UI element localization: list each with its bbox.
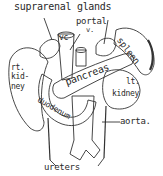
anatomy-diagram: suprarenal glands portal v. vc rt. kid- … <box>0 0 163 176</box>
label-suprarenal-glands: suprarenal glands <box>14 2 111 12</box>
right-ureter-shape <box>48 118 50 160</box>
label-aorta: aorta. <box>120 117 151 126</box>
label-vena-cava: vc <box>59 34 68 42</box>
left-ureter-shape <box>104 106 106 158</box>
label-lt-kidney-2: kidney <box>112 90 139 98</box>
right-suprarenal-shape <box>40 39 60 58</box>
label-lt-kidney-1: lt. <box>126 78 140 86</box>
label-rt-kidney-3: ney <box>11 83 25 91</box>
label-rt-kidney-2: kid- <box>11 73 29 81</box>
label-rt-kidney-1: rt. <box>11 64 25 72</box>
label-portal-v: v. <box>86 27 94 34</box>
left-suprarenal-shape <box>96 38 116 56</box>
label-portal: portal <box>76 17 107 26</box>
label-ureters: ureters <box>44 163 80 172</box>
